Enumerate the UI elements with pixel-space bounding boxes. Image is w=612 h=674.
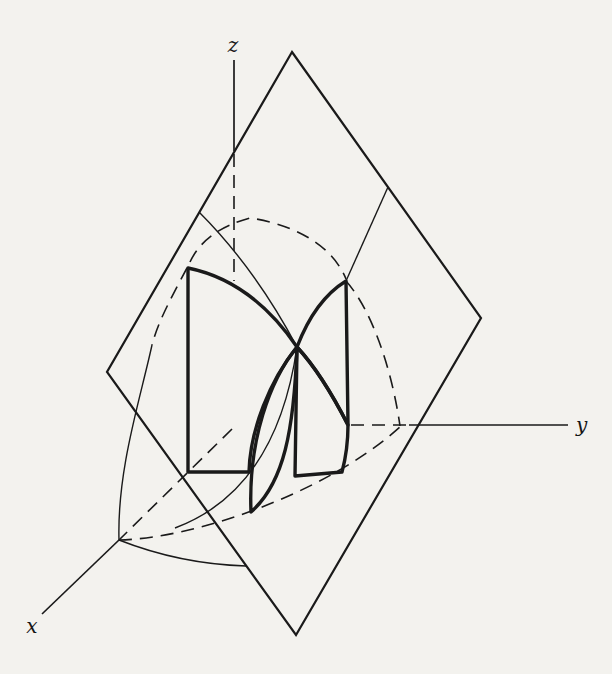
petal-lower-middle <box>251 347 297 512</box>
left-meridian-arc <box>119 345 152 540</box>
z-axis-label: z <box>227 33 239 57</box>
floor-front-arc <box>119 540 246 566</box>
petal-upper-right <box>297 281 348 425</box>
y-axis-label: y <box>575 413 588 437</box>
x-axis-label: x <box>26 614 37 638</box>
math-figure: z y x <box>0 0 612 674</box>
left-meridian-arc-hidden <box>152 268 187 345</box>
circle-right-dashed-arc <box>346 281 400 426</box>
floor-circle-dashed-arc <box>119 427 400 540</box>
chord-line-right <box>346 187 388 281</box>
x-axis <box>42 540 119 614</box>
figure-canvas: z y x <box>0 0 612 674</box>
